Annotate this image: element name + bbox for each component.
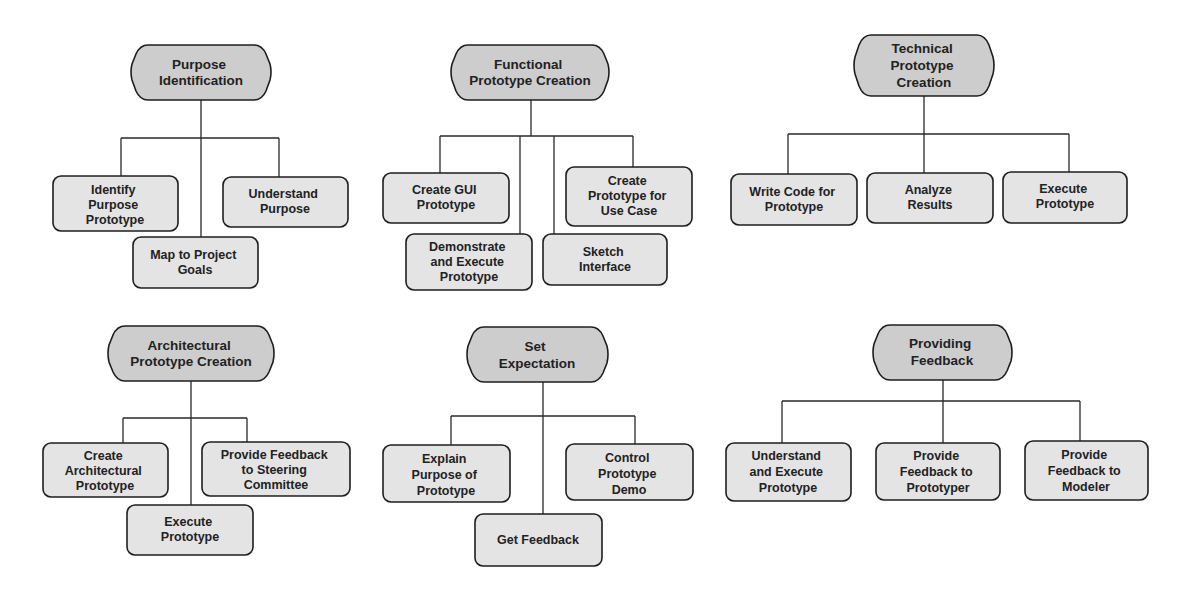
connector: [782, 380, 1080, 443]
diagram-architectural-prototype-creation: Architectural Prototype Creation Create …: [43, 326, 350, 555]
prototype-activity-diagrams: Purpose Identification Identify Purpose …: [0, 0, 1192, 594]
node-label: Get Feedback: [497, 533, 579, 547]
node-label: Demonstrate and Execute Prototype: [429, 240, 509, 284]
node-label: Identify Purpose Prototype: [86, 183, 144, 227]
node-label: Sketch Interface: [579, 245, 631, 274]
node-label: Understand and Execute Prototype: [749, 449, 826, 495]
node-label: Analyze Results: [905, 183, 956, 212]
connector: [788, 96, 1069, 174]
node-label: Execute Prototype: [161, 515, 219, 544]
node-label: Create GUI Prototype: [412, 183, 480, 212]
diagram-set-expectation: Set Expectation Explain Purpose of Proto…: [383, 327, 693, 566]
root-label: Technical Prototype Creation: [891, 41, 958, 90]
root-node-set-expectation[interactable]: [467, 327, 608, 382]
diagram-providing-feedback: Providing Feedback Understand and Execut…: [726, 325, 1148, 501]
root-label: Architectural Prototype Creation: [130, 338, 252, 369]
diagram-functional-prototype-creation: Functional Prototype Creation Create GUI…: [383, 45, 692, 290]
diagram-purpose-identification: Purpose Identification Identify Purpose …: [53, 45, 348, 288]
diagram-technical-prototype-creation: Technical Prototype Creation Write Code …: [731, 35, 1127, 225]
node-label: Execute Prototype: [1036, 182, 1094, 211]
